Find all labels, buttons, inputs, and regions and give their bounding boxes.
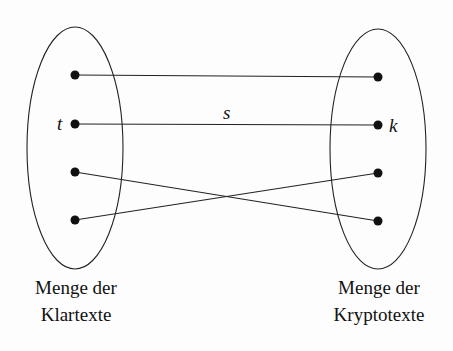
left-set-ellipse — [27, 27, 123, 269]
edge-4 — [75, 173, 378, 220]
left-element-dot — [71, 120, 80, 129]
right-element-dot — [374, 73, 383, 82]
left-set-label-line2: Klartexte — [18, 301, 134, 328]
left-element-dot — [71, 168, 80, 177]
ciphertext-element-label: k — [389, 116, 397, 135]
right-set-label-line1: Menge der — [316, 274, 442, 301]
right-set-label: Menge der Kryptotexte — [316, 274, 442, 328]
right-element-dot — [374, 121, 383, 130]
edge-2 — [75, 124, 378, 125]
left-set-label: Menge der Klartexte — [18, 274, 134, 328]
left-element-dot — [71, 216, 80, 225]
left-element-dot — [71, 71, 80, 80]
edge-1 — [75, 75, 378, 77]
right-set-ellipse — [330, 29, 426, 269]
right-element-dot — [374, 169, 383, 178]
mapping-label: s — [223, 103, 230, 122]
right-set-label-line2: Kryptotexte — [316, 301, 442, 328]
right-element-dot — [374, 217, 383, 226]
plaintext-element-label: t — [57, 114, 62, 133]
left-set-label-line1: Menge der — [18, 274, 134, 301]
